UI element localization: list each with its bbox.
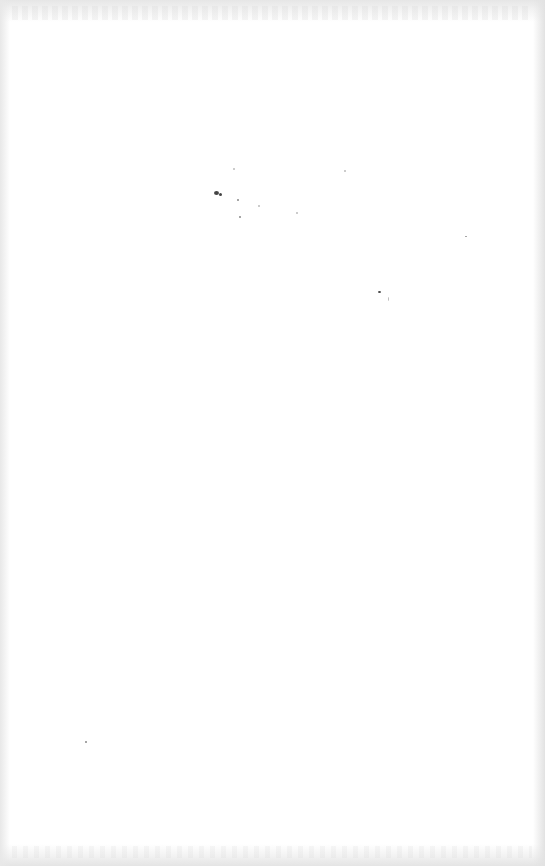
- bleed-through-text-top: [12, 6, 532, 20]
- scan-edge-right: [533, 0, 545, 866]
- dust-speck: [465, 236, 467, 237]
- dust-speck: [378, 291, 381, 293]
- dust-speck: [233, 168, 235, 170]
- dust-speck: [239, 216, 241, 218]
- dust-speck: [219, 193, 222, 196]
- scanned-page: [0, 0, 545, 866]
- dust-speck: [258, 205, 260, 207]
- dust-speck: [296, 212, 298, 214]
- dust-speck: [388, 297, 389, 301]
- scan-edge-left: [0, 0, 10, 866]
- bleed-through-text-bottom: [12, 846, 532, 858]
- dust-speck: [85, 741, 87, 743]
- dust-speck: [344, 170, 346, 172]
- dust-speck: [237, 199, 239, 201]
